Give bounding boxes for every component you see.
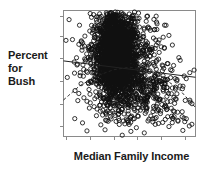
scatter-point	[85, 129, 89, 133]
scatter-point	[157, 50, 161, 54]
scatter-point	[142, 131, 146, 135]
scatter-point	[74, 56, 78, 60]
scatter-point	[152, 53, 156, 57]
scatter-point	[103, 128, 107, 132]
y-axis-label: Percent for Bush	[8, 49, 62, 88]
scatter-point	[129, 129, 133, 133]
scatter-point	[161, 35, 165, 39]
scatter-point	[173, 101, 177, 105]
scatter-point	[167, 124, 171, 128]
scatter-point	[167, 33, 171, 37]
scatter-point	[82, 96, 86, 100]
scatter-plot-figure: Percent for Bush Median Family Income	[0, 0, 205, 169]
scatter-point	[188, 71, 192, 75]
scatter-point	[77, 42, 81, 46]
scatter-point	[170, 43, 174, 47]
scatter-point	[67, 18, 71, 22]
scatter-point	[70, 37, 74, 41]
scatter-point	[136, 11, 140, 15]
scatter-point	[99, 123, 103, 127]
y-axis-label-line-1: Percent	[8, 49, 62, 62]
y-axis-label-line-3: Bush	[8, 75, 62, 88]
x-axis-label: Median Family Income	[58, 150, 205, 162]
scatter-point	[77, 23, 81, 27]
scatter-points-group	[64, 10, 196, 137]
scatter-point	[180, 110, 184, 114]
scatter-point	[87, 87, 91, 91]
scatter-point	[65, 75, 69, 79]
scatter-point	[64, 38, 68, 42]
scatter-point	[87, 106, 91, 110]
scatter-point	[183, 98, 187, 102]
scatter-point	[83, 34, 87, 38]
scatter-point	[94, 90, 98, 94]
scatter-point	[175, 92, 179, 96]
scatter-point	[170, 121, 174, 125]
scatter-point	[77, 91, 81, 95]
scatter-point	[168, 99, 172, 103]
scatter-point	[88, 92, 92, 96]
scatter-point	[171, 63, 175, 67]
scatter-point	[180, 87, 184, 91]
scatter-point	[163, 117, 167, 121]
scatter-point	[80, 121, 84, 125]
scatter-point	[94, 114, 98, 118]
scatter-point	[168, 68, 172, 72]
scatter-point	[76, 99, 80, 103]
scatter-point	[73, 117, 77, 121]
scatter-point	[181, 128, 185, 132]
y-axis-label-line-2: for	[8, 62, 62, 75]
scatter-point	[72, 71, 76, 75]
scatter-point	[134, 126, 138, 130]
scatter-point	[78, 71, 82, 75]
scatter-point	[144, 19, 148, 23]
x-axis-ticks	[67, 137, 186, 141]
